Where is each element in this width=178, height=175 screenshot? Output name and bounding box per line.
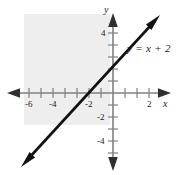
y-tick-label-4: 4 [101, 29, 106, 38]
y-axis-bottom-arrow-icon [108, 157, 118, 171]
y-tick-label--2: -2 [97, 113, 105, 122]
shaded-region [24, 14, 110, 125]
y-axis-label: y [104, 5, 108, 15]
x-axis-right-arrow-icon [158, 88, 171, 98]
graph-figure: -6 -4 -2 2 4 -2 -4 x y y = x + 2 [0, 0, 178, 175]
coordinate-plane-svg [0, 0, 178, 175]
equation-label: y = x + 2 [127, 43, 171, 54]
x-tick-label-2: 2 [147, 100, 152, 109]
x-tick-label--6: -6 [25, 100, 33, 109]
x-axis-label: x [163, 99, 167, 109]
y-tick-label--4: -4 [97, 137, 105, 146]
x-axis-left-arrow-icon [7, 88, 20, 98]
x-tick-label--4: -4 [49, 100, 57, 109]
x-tick-label--2: -2 [85, 100, 93, 109]
